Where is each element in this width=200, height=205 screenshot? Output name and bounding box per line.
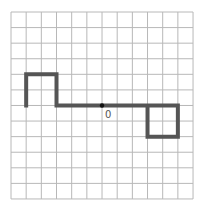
origin-dot xyxy=(100,103,104,107)
grid-diagram: 0 xyxy=(0,0,200,205)
origin-label: 0 xyxy=(105,109,111,120)
